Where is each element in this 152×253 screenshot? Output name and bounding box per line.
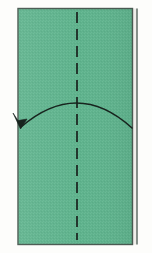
diagram-canvas xyxy=(0,0,152,253)
origami-fold-diagram: Paper folding step diagram Green rectang… xyxy=(0,0,152,253)
paper-shading-overlay xyxy=(18,9,133,245)
